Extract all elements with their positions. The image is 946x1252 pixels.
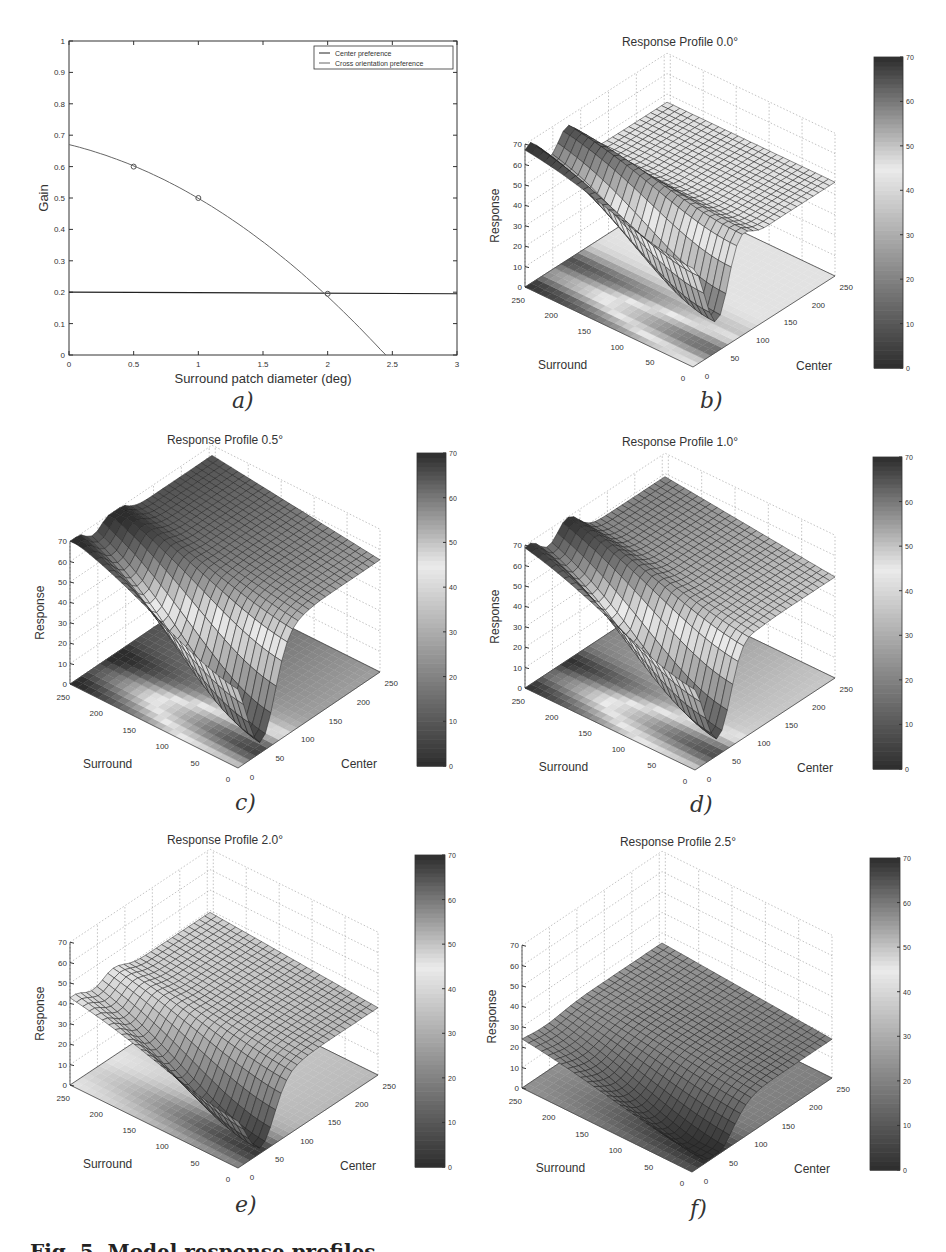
center-tick-label: 100 [300,1137,314,1146]
surround-tick-label: 250 [509,1097,523,1106]
center-tick-label: 100 [754,1140,768,1149]
surround-axis-label: Surround [538,358,587,372]
colorbar-tick-label: 60 [905,499,913,506]
z-tick-label: 40 [58,598,67,607]
z-axis: 010203040506070Response [488,140,529,292]
colorbar-tick-label: 40 [905,588,913,595]
colorbar-tick-label: 0 [448,1164,452,1171]
center-axis-label: Center [796,359,832,373]
surround-tick-label: 0 [681,374,686,383]
panel-f-label: f) [690,1196,707,1221]
x-tick-label: 0.5 [128,360,140,369]
colorbar-tick-label: 30 [449,629,457,636]
colorbar-tick-label: 0 [449,763,453,770]
surround-tick-label: 150 [577,327,591,336]
colorbar-tick-label: 70 [448,852,456,859]
plot-title: Response Profile 2.5° [620,835,736,849]
panel-c-response-profile: Response Profile 0.5°010203040506070Resp… [0,420,470,830]
surround-tick-label: 100 [155,1142,169,1151]
surround-tick-label: 200 [90,709,104,718]
x-axis-label: Surround patch diameter (deg) [174,371,351,386]
z-tick-label: 30 [58,1020,67,1029]
x-tick-label: 2 [325,360,330,369]
x-tick-label: 3 [455,360,460,369]
z-tick-label: 30 [513,623,522,632]
panel-f-response-profile: Response Profile 2.5°010203040506070Resp… [470,820,946,1230]
surround-tick-label: 200 [545,311,559,320]
surround-tick-label: 0 [683,777,688,786]
center-tick-label: 150 [785,721,799,730]
center-tick-label: 50 [275,754,284,763]
colorbar-tick-label: 30 [906,232,914,239]
z-tick-label: 50 [58,979,67,988]
center-tick-label: 200 [812,301,826,310]
surround-tick-label: 0 [226,775,231,784]
colorbar-tick-label: 30 [903,1033,911,1040]
panel-b-response-profile: Response Profile 0.0°010203040506070Resp… [470,0,946,420]
surround-tick-label: 50 [191,1159,200,1168]
z-axis: 010203040506070Response [485,941,526,1093]
surround-tick-label: 200 [90,1110,104,1119]
panel-d-response-profile: Response Profile 1.0°010203040506070Resp… [470,420,946,830]
center-tick-label: 0 [250,773,255,782]
surround-tick-label: 200 [545,713,559,722]
surround-tick-label: 0 [226,1175,231,1184]
z-tick-label: 60 [513,562,522,571]
z-axis: 010203040506070Response [33,938,74,1090]
colorbar-tick-label: 0 [905,766,909,773]
z-tick-label: 20 [510,1043,519,1052]
z-axis-label: Response [33,986,47,1040]
z-tick-label: 20 [513,242,522,251]
z-tick-label: 40 [510,1002,519,1011]
z-tick-label: 50 [513,582,522,591]
colorbar-tick-label: 10 [448,1119,456,1126]
surround-tick-label: 250 [57,1094,71,1103]
center-tick-label: 0 [704,1177,709,1186]
colorbar-tick-label: 30 [448,1030,456,1037]
surface-plot-d: Response Profile 1.0°010203040506070Resp… [470,420,946,830]
center-tick-label: 250 [837,1085,851,1094]
z-tick-label: 40 [58,999,67,1008]
surround-tick-label: 100 [612,745,626,754]
z-tick-label: 10 [510,1064,519,1073]
center-tick-label: 200 [355,1100,369,1109]
surround-tick-label: 100 [610,343,624,352]
center-axis-label: Center [797,761,833,775]
surround-axis-label: Surround [539,760,588,774]
center-tick-label: 100 [756,336,770,345]
z-tick-label: 10 [58,660,67,669]
colorbar-tick-label: 0 [903,1167,907,1174]
center-preference-line [69,292,457,294]
z-tick-label: 70 [513,140,522,149]
z-tick-label: 10 [513,263,522,272]
z-tick-label: 30 [513,222,522,231]
response-surface-mesh [70,912,378,1148]
colorbar: 010203040506070 [415,852,456,1171]
colorbar-tick-label: 70 [903,855,911,862]
center-axis-label: Center [341,757,377,771]
center-tick-label: 50 [275,1155,284,1164]
z-tick-label: 40 [513,602,522,611]
colorbar-tick-label: 10 [903,1122,911,1129]
center-tick-label: 50 [729,1159,738,1168]
colorbar-tick-label: 60 [903,900,911,907]
center-tick-label: 250 [840,283,854,292]
surround-tick-label: 250 [57,693,71,702]
plot-title: Response Profile 0.5° [167,433,283,447]
x-tick-label: 1 [196,360,201,369]
x-tick-label: 0 [67,360,72,369]
z-tick-label: 0 [518,283,523,292]
z-axis: 010203040506070Response [488,541,529,693]
center-tick-label: 50 [732,757,741,766]
center-tick-label: 100 [757,739,771,748]
center-tick-label: 0 [250,1173,255,1182]
colorbar-tick-label: 50 [448,941,456,948]
y-tick-label: 0 [61,351,66,360]
colorbar-tick-label: 20 [906,276,914,283]
z-tick-label: 60 [510,962,519,971]
z-axis-label: Response [33,585,47,639]
y-tick-label: 0.1 [54,320,66,329]
colorbar-tick-label: 40 [903,989,911,996]
surround-tick-label: 100 [609,1146,623,1155]
colorbar-tick-label: 10 [906,321,914,328]
